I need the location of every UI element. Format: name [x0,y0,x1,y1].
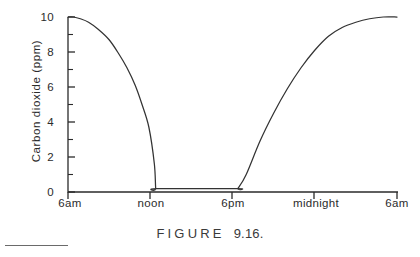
y-axis-title: Carbon dioxide (ppm) [30,6,52,196]
y-tick-label-10: 10 [28,11,54,23]
co2-data-curve [68,17,397,190]
figure-caption-word: FIGURE [156,226,224,241]
y-tick-label-4: 4 [28,116,54,128]
x-tick-label-midnight: midnight [293,197,339,209]
x-tick-label-noon: noon [138,197,165,209]
x-tick-label-6am-end: 6am [385,197,408,209]
y-tick-label-0: 0 [28,186,54,198]
x-tick-label-6am-start: 6am [58,197,81,209]
y-tick-label-6: 6 [28,81,54,93]
caption-rule [5,245,68,246]
figure-container: Carbon dioxide (ppm) 0 2 4 6 8 10 6am no… [0,0,420,257]
figure-caption: FIGURE9.16. [0,226,420,241]
y-tick-label-8: 8 [28,46,54,58]
y-tick-label-2: 2 [28,151,54,163]
carbon-dioxide-line-chart [0,0,420,220]
x-tick-label-6pm: 6pm [221,197,244,209]
figure-caption-number: 9.16. [234,226,264,241]
axis-lines [68,17,398,192]
y-axis-minor-ticks [68,35,73,175]
